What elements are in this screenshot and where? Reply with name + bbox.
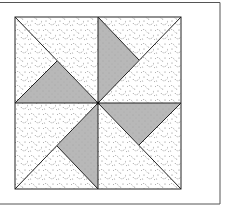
quilt-figure-frame [0,0,226,209]
quilt-block-svg [0,0,226,209]
center-point [97,102,100,105]
